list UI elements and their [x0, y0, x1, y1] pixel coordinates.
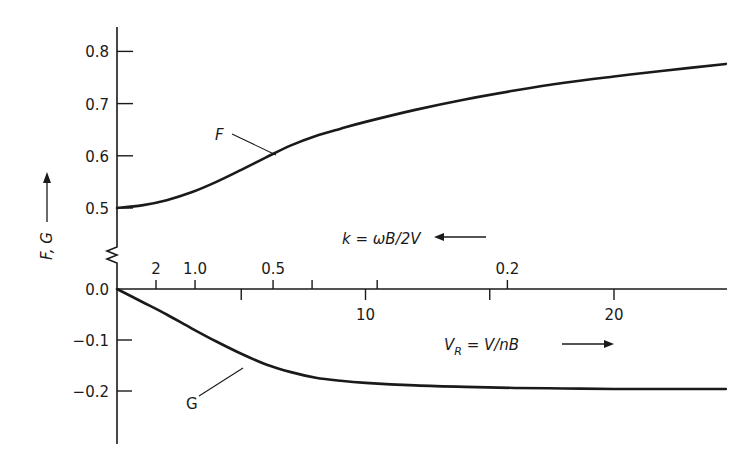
k-tick-label-2: 0.5 — [261, 260, 285, 278]
x-tick-label-1: 10 — [356, 306, 375, 324]
k-tick-label-1: 1.0 — [183, 260, 207, 278]
vr-axis-label: VR = V/nB — [444, 336, 519, 358]
k-axis-label: k = ωB/2V — [342, 230, 422, 248]
series-g-line — [117, 289, 726, 389]
y-tick-label-upper-0: 0.8 — [85, 43, 109, 61]
series-group — [117, 64, 726, 389]
k-tick-label-5: 0.2 — [495, 260, 519, 278]
g-leader-line — [199, 368, 243, 396]
f-leader-line — [232, 134, 276, 155]
k-axis-label-prefix: k = — [342, 230, 373, 248]
vr-axis-label-sub: R — [454, 345, 462, 358]
y-axis-label: F, G — [38, 232, 56, 260]
series-f-line — [117, 64, 726, 208]
y-arrow-up-icon — [43, 172, 51, 222]
vr-axis-label-expr: = V/nB — [462, 336, 519, 354]
y-tick-label-upper-2: 0.6 — [85, 148, 109, 166]
f-label: F — [215, 126, 224, 144]
x-tick-label-3: 20 — [604, 306, 623, 324]
y-tick-label-lower-0: 0.0 — [85, 281, 109, 299]
y-ticks: 0.80.70.60.50.0−0.1−0.2 — [73, 43, 133, 401]
y-tick-label-upper-1: 0.7 — [85, 96, 109, 114]
y-tick-label-upper-3: 0.5 — [85, 200, 109, 218]
y-tick-label-lower-2: −0.2 — [73, 383, 109, 401]
y-tick-label-lower-1: −0.1 — [73, 332, 109, 350]
k-axis-label-expr: ωB/2V — [373, 230, 422, 248]
g-label: G — [186, 395, 198, 413]
k-ticks: 21.00.50.2 — [151, 260, 519, 289]
k-tick-label-0: 2 — [151, 260, 161, 278]
vr-arrow-right-icon — [562, 340, 614, 348]
chart: 0.80.70.60.50.0−0.1−0.2 1020 21.00.50.2 … — [0, 0, 735, 467]
k-arrow-left-icon — [434, 233, 486, 241]
y-axis — [107, 27, 117, 444]
x-ticks: 1020 — [241, 289, 623, 324]
